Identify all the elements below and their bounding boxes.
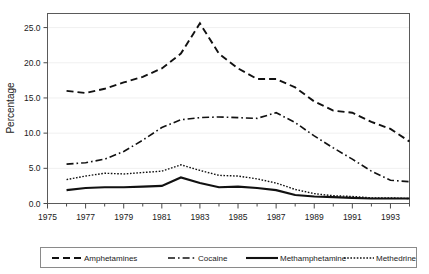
legend-label: Cocaine xyxy=(198,254,228,263)
line-chart-figure: 0.05.010.015.020.025.0 19751977197919811… xyxy=(0,0,429,274)
y-tick-label: 20.0 xyxy=(24,58,41,68)
x-tick-label: 1987 xyxy=(267,212,286,222)
figure-background xyxy=(0,0,429,274)
x-tick-label: 1981 xyxy=(152,212,171,222)
x-tick-label: 1979 xyxy=(114,212,133,222)
x-tick-label: 1991 xyxy=(343,212,362,222)
y-tick-label: 10.0 xyxy=(24,128,41,138)
y-tick-label: 0.0 xyxy=(29,199,41,209)
legend-label: Methamphetamine xyxy=(280,254,347,263)
y-tick-label: 25.0 xyxy=(24,23,41,33)
y-axis-title: Percentage xyxy=(5,82,16,134)
x-tick-label: 1975 xyxy=(38,212,57,222)
x-tick-label: 1985 xyxy=(229,212,248,222)
legend-label: Methedrine xyxy=(376,254,417,263)
legend-label: Amphetamines xyxy=(84,254,137,263)
x-tick-label: 1983 xyxy=(190,212,209,222)
x-tick-label: 1993 xyxy=(381,212,400,222)
y-tick-label: 5.0 xyxy=(29,163,41,173)
x-tick-label: 1977 xyxy=(76,212,95,222)
y-tick-label: 15.0 xyxy=(24,93,41,103)
x-tick-label: 1989 xyxy=(305,212,324,222)
